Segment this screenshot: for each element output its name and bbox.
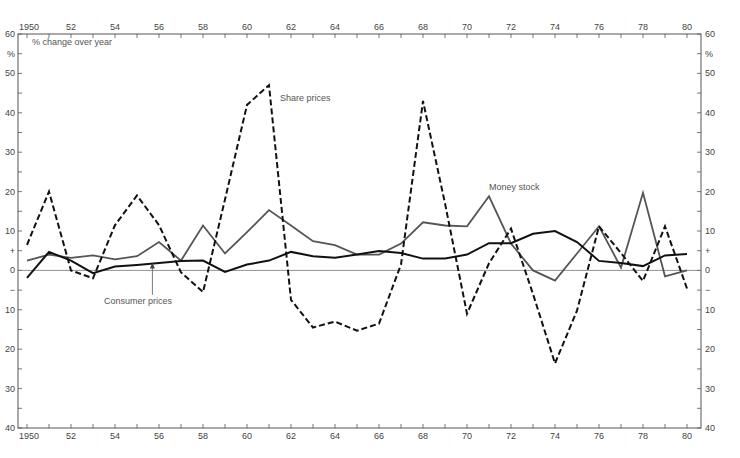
x-tick-label-top: 78: [638, 22, 648, 32]
y-tick-label-left: 30: [5, 147, 15, 157]
label-money-stock: Money stock: [489, 182, 540, 192]
y-tick-label-left: 50: [5, 68, 15, 78]
y-tick-label-right: 50: [705, 68, 715, 78]
y-tick-label-right: −: [705, 285, 710, 295]
y-tick-label-left: 20: [5, 187, 15, 197]
x-tick-label-bottom: 68: [418, 431, 428, 441]
x-tick-label-bottom: 72: [506, 431, 516, 441]
x-tick-label-bottom: 56: [154, 431, 164, 441]
y-tick-label-right: %: [705, 49, 713, 59]
x-tick-label-bottom: 62: [286, 431, 296, 441]
x-tick-label-top: 1950: [19, 22, 39, 32]
y-tick-label-left: 60: [5, 29, 15, 39]
y-tick-label-left: 0: [10, 265, 15, 275]
y-tick-label-right: 40: [705, 423, 715, 433]
x-tick-label-bottom: 60: [242, 431, 252, 441]
y-tick-label-right: +: [705, 246, 710, 256]
y-tick-label-left: 10: [5, 226, 15, 236]
y-tick-label-right: 20: [705, 187, 715, 197]
y-tick-label-left: +: [10, 246, 15, 256]
x-tick-label-top: 56: [154, 22, 164, 32]
y-tick-label-left: 30: [5, 384, 15, 394]
y-tick-label-left: %: [7, 49, 15, 59]
chart-annotations: Share pricesMoney stockConsumer prices: [104, 93, 540, 306]
x-tick-label-top: 64: [330, 22, 340, 32]
y-tick-label-right: 20: [705, 344, 715, 354]
y-tick-label-right: 60: [705, 29, 715, 39]
x-tick-label-bottom: 80: [682, 431, 692, 441]
label-consumer-prices: Consumer prices: [104, 296, 173, 306]
x-tick-label-bottom: 1950: [19, 431, 39, 441]
x-tick-label-bottom: 66: [374, 431, 384, 441]
x-tick-label-bottom: 52: [66, 431, 76, 441]
x-tick-label-top: 68: [418, 22, 428, 32]
x-tick-label-bottom: 54: [110, 431, 120, 441]
y-tick-label-right: 30: [705, 384, 715, 394]
y-tick-label-right: 10: [705, 226, 715, 236]
x-tick-label-top: 74: [550, 22, 560, 32]
chart-subtitle: % change over year: [32, 37, 112, 47]
y-tick-label-left: 40: [5, 423, 15, 433]
chart-series: [27, 85, 687, 363]
y-tick-label-right: 0: [705, 265, 710, 275]
chart-axes: 1950195052525454565658586060626264646666…: [5, 22, 715, 441]
x-tick-label-top: 66: [374, 22, 384, 32]
x-tick-label-top: 72: [506, 22, 516, 32]
y-tick-label-left: 40: [5, 108, 15, 118]
x-tick-label-top: 62: [286, 22, 296, 32]
label-share-prices: Share prices: [280, 93, 331, 103]
x-tick-label-bottom: 78: [638, 431, 648, 441]
x-tick-label-bottom: 70: [462, 431, 472, 441]
y-tick-label-right: 10: [705, 305, 715, 315]
x-tick-label-top: 54: [110, 22, 120, 32]
x-tick-label-top: 80: [682, 22, 692, 32]
x-tick-label-top: 70: [462, 22, 472, 32]
y-tick-label-left: −: [10, 285, 15, 295]
x-tick-label-top: 60: [242, 22, 252, 32]
y-tick-label-right: 40: [705, 108, 715, 118]
x-tick-label-bottom: 74: [550, 431, 560, 441]
y-tick-label-left: 20: [5, 344, 15, 354]
line-chart: 1950195052525454565658586060626264646666…: [0, 0, 740, 458]
x-tick-label-bottom: 64: [330, 431, 340, 441]
x-tick-label-top: 58: [198, 22, 208, 32]
x-tick-label-bottom: 76: [594, 431, 604, 441]
series-share-prices: [27, 85, 687, 363]
y-tick-label-left: 10: [5, 305, 15, 315]
y-tick-label-right: 30: [705, 147, 715, 157]
x-tick-label-top: 52: [66, 22, 76, 32]
series-consumer-prices: [27, 231, 687, 278]
x-tick-label-top: 76: [594, 22, 604, 32]
x-tick-label-bottom: 58: [198, 431, 208, 441]
